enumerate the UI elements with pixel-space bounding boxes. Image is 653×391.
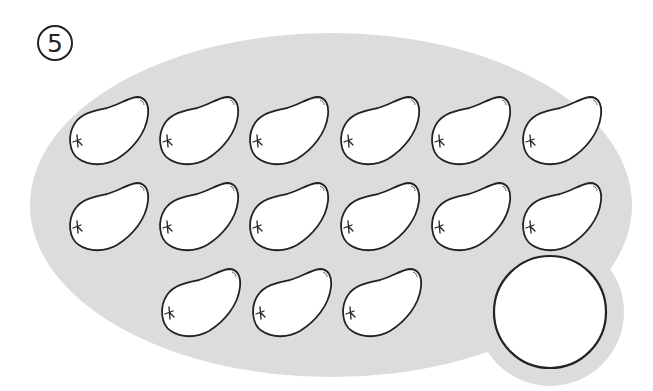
answer-input-circle[interactable] [494,256,606,368]
counting-illustration [0,0,653,391]
